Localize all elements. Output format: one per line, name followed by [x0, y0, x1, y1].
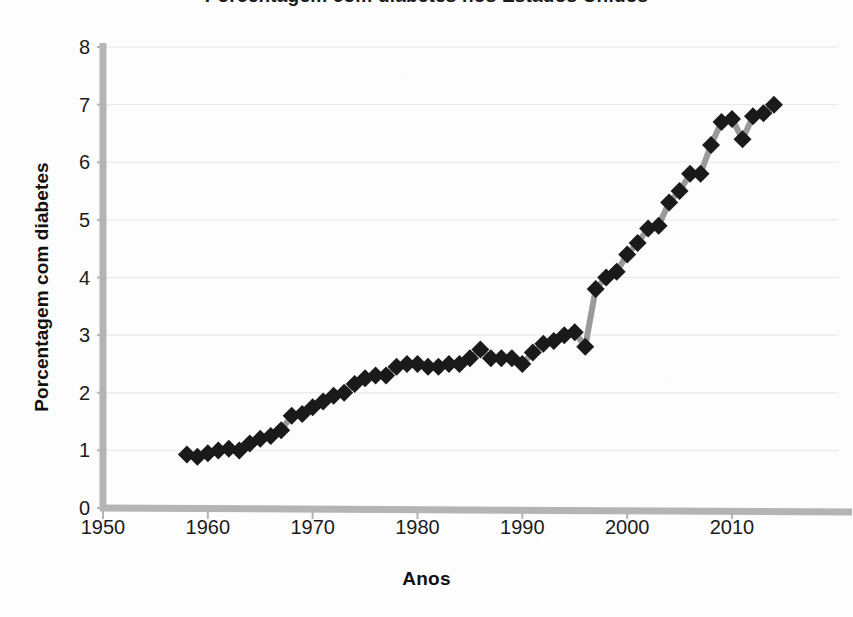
- data-point-marker: [692, 165, 710, 183]
- gridlines: [103, 47, 838, 450]
- data-point-marker: [702, 136, 720, 154]
- line-chart-plot: [0, 0, 853, 617]
- series-markers: [178, 96, 783, 466]
- chart-page: Porcentagem com diabetes nos Estados Uni…: [0, 0, 853, 617]
- series-line: [187, 105, 774, 457]
